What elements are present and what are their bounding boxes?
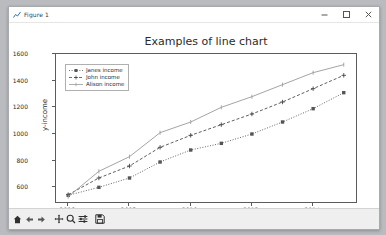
data-point-marker	[75, 69, 78, 72]
zoom-button[interactable]	[65, 213, 76, 226]
x-tick-label: 2006	[47, 206, 87, 208]
legend-line-sample	[68, 67, 84, 74]
y-tick-label: 1400	[9, 76, 28, 83]
x-tick-label: 2014	[292, 206, 332, 208]
data-point-marker	[158, 145, 162, 149]
legend-item: Alison income	[68, 81, 124, 88]
data-point-marker	[220, 142, 223, 145]
maximize-button[interactable]	[335, 7, 357, 22]
data-point-marker	[342, 73, 346, 77]
window-controls	[313, 7, 379, 22]
data-point-marker	[311, 107, 314, 110]
legend-item: John income	[68, 74, 124, 81]
forward-button[interactable]	[36, 213, 47, 226]
data-point-marker	[342, 91, 345, 94]
data-point-marker	[97, 176, 101, 180]
y-tick-label: 1600	[9, 50, 28, 57]
legend-item: Janes income	[68, 67, 124, 74]
legend-label: Alison income	[86, 81, 124, 88]
legend-label: Janes income	[86, 67, 123, 74]
close-button[interactable]	[357, 7, 379, 22]
y-axis-label: y-income	[41, 75, 49, 155]
data-point-marker	[280, 100, 284, 104]
title-bar-left: Figure 1	[9, 11, 49, 19]
chart-icon	[13, 11, 21, 19]
minimize-button[interactable]	[313, 7, 335, 22]
data-point-marker	[281, 120, 284, 123]
navigation-toolbar	[9, 208, 379, 229]
x-tick-label: 2008	[108, 206, 148, 208]
y-tick-label: 1200	[9, 103, 28, 110]
home-button[interactable]	[12, 213, 23, 226]
window-title: Figure 1	[24, 11, 49, 18]
legend-line-sample	[68, 74, 84, 81]
legend-line-sample	[68, 81, 84, 88]
data-point-marker	[97, 186, 100, 189]
figure-canvas[interactable]: Examples of line chart y-income x-year 6…	[9, 23, 379, 208]
data-point-marker	[74, 76, 78, 80]
data-point-marker	[128, 176, 131, 179]
data-point-marker	[127, 164, 131, 168]
data-point-marker	[189, 148, 192, 151]
title-bar: Figure 1	[9, 7, 379, 23]
chart-legend: Janes incomeJohn incomeAlison income	[65, 64, 129, 91]
data-point-marker	[311, 86, 315, 90]
y-tick-label: 800	[9, 156, 28, 163]
x-tick-label: 2010	[170, 206, 210, 208]
y-tick-label: 600	[9, 183, 28, 190]
data-point-marker	[250, 112, 254, 116]
data-point-marker	[158, 160, 161, 163]
x-tick-label: 2012	[231, 206, 271, 208]
pan-button[interactable]	[53, 213, 64, 226]
series-line	[68, 93, 344, 196]
data-point-marker	[219, 122, 223, 126]
data-point-marker	[188, 133, 192, 137]
save-button[interactable]	[94, 213, 105, 226]
configure-subplots-button[interactable]	[77, 213, 88, 226]
figure-window: Figure 1 Examples of line chart y-income…	[8, 6, 380, 230]
legend-label: John income	[86, 74, 120, 81]
series-line	[68, 75, 344, 194]
data-point-marker	[250, 132, 253, 135]
back-button[interactable]	[24, 213, 35, 226]
chart-title: Examples of line chart	[55, 35, 357, 48]
y-tick-label: 1000	[9, 130, 28, 137]
